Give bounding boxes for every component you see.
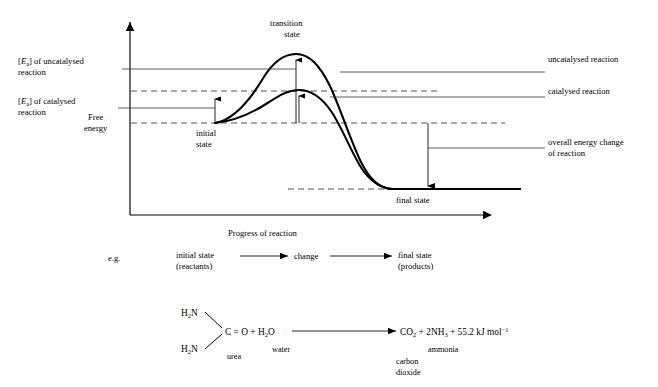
y-axis-label-line1: Free	[88, 112, 103, 122]
y-axis-label-line2: energy	[84, 123, 108, 133]
uncatalysed-reaction-curve	[215, 54, 520, 189]
urea-amine-top: H2N	[181, 308, 198, 319]
diagram-canvas: [Ea] of uncatalysed reaction [Ea] of cat…	[0, 0, 658, 387]
urea-amine-bottom: H2N	[181, 344, 198, 355]
carbon-dioxide-label-line2: dioxide	[396, 368, 421, 377]
example-change-label: change	[294, 251, 319, 261]
water-label: water	[272, 345, 290, 354]
overall-energy-change-label-line2: of reaction	[548, 148, 586, 158]
final-state-label: final state	[396, 195, 430, 205]
products-expression: CO2 + 2NH3 + 55.2 kJ mol−1	[400, 326, 508, 339]
catalysed-reaction-label: catalysed reaction	[548, 86, 610, 96]
urea-label: urea	[227, 352, 241, 361]
example-final-state-line1: final state	[398, 250, 432, 260]
transition-state-label-line2: state	[284, 29, 300, 39]
carbonyl-water-group: C = O + H2O	[225, 327, 275, 338]
example-prefix: e.g.	[108, 253, 120, 263]
initial-state-label-line1: initial	[196, 128, 217, 138]
urea-bond-bottom	[205, 334, 222, 349]
ea-uncatalysed-label-line2: reaction	[18, 67, 46, 77]
ea-catalysed-label-line2: reaction	[18, 107, 46, 117]
ammonia-label: ammonia	[428, 345, 459, 354]
example-initial-state-line2: (reactants)	[176, 261, 212, 271]
energy-profile-figure: [Ea] of uncatalysed reaction [Ea] of cat…	[0, 0, 658, 387]
example-initial-state-line1: initial state	[176, 250, 214, 260]
ea-catalysed-label: [Ea] of catalysed	[18, 96, 76, 107]
transition-state-label-line1: transition	[270, 18, 303, 28]
carbon-dioxide-label-line1: carbon	[396, 357, 418, 366]
urea-bond-top	[205, 312, 222, 328]
overall-energy-change-label-line1: overall energy change	[548, 137, 624, 147]
x-axis-arrowhead	[483, 211, 492, 219]
uncatalysed-reaction-label: uncatalysed reaction	[548, 54, 619, 64]
initial-state-label-line2: state	[196, 139, 212, 149]
ea-uncatalysed-label: [Ea] of uncatalysed	[18, 56, 85, 67]
example-final-state-line2: (products)	[398, 261, 433, 271]
x-axis-label: Progress of reaction	[228, 228, 297, 238]
y-axis-arrowhead	[126, 22, 134, 31]
